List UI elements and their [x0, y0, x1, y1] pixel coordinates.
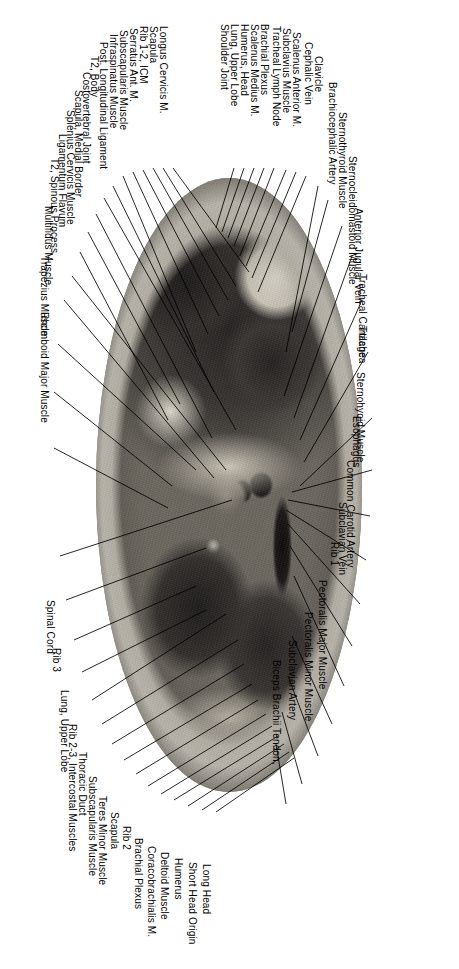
label-serratus-ant-m: Serratus Ant. M. — [128, 28, 138, 102]
label-subclavius-muscle: Subclavius Muscle — [281, 28, 291, 113]
label-brachial-plexus-lower: Brachial Plexus — [133, 838, 143, 909]
label-deltoid-muscle: Deltoid Muscle — [159, 852, 169, 920]
label-subscapularis-muscle-2: Subscapularis Muscle — [87, 776, 97, 876]
label-scalenus-anterior-m: Scalenus Anterior M. — [291, 32, 301, 127]
label-humerus-lower: Humerus — [173, 858, 183, 900]
label-teres-minor-muscle: Teres Minor Muscle — [97, 796, 107, 885]
label-rib-1-2-icm: Rib 1-2, ICM — [138, 26, 148, 84]
label-pectoralis-major-muscle: Pectoralis Major Muscle — [317, 580, 327, 689]
label-spinal-cord: Spinal Cord — [45, 600, 55, 654]
label-subscapularis-muscle-1: Subscapularis Muscle — [118, 30, 128, 130]
label-pectoralis-minor-muscle: Pectoralis Minor Muscle — [303, 612, 313, 721]
label-scapula-2: Scapula — [109, 812, 119, 849]
label-scalenus-medius-m: Scalenus Medius M. — [249, 24, 259, 117]
label-thoracic-duct: Thoracic Duct — [77, 752, 87, 816]
label-humerus-head: Humerus, Head — [239, 24, 249, 96]
label-brachiocephalic-artery: Brachiocephalic Artery — [327, 82, 337, 185]
label-long-head: Long Head — [201, 864, 211, 914]
label-coracobrachialis-m: Coracobrachialis M. — [146, 846, 156, 937]
anatomical-figure: Longus Cervicis M.ScapulaRib 1-2, ICMSer… — [0, 0, 459, 969]
label-brachial-plexus-upper: Brachial Plexus — [259, 24, 269, 95]
label-rib-2-3-intercostal-muscles: Rib 2-3, Intercostal Muscles — [67, 724, 77, 851]
label-infraspinatus-muscle: Infraspinatus Muscle — [108, 34, 118, 129]
label-longus-cervicis-m: Longus Cervicis M. — [158, 26, 168, 114]
label-rhomboid-major-muscle: Rhomboid Major Muscle — [39, 312, 49, 423]
label-biceps-brachii-tendon: Biceps Brachii Tendon, — [271, 660, 281, 765]
label-clavicle: Clavicle — [313, 56, 323, 92]
label-scapula-1: Scapula — [148, 26, 158, 63]
label-subclavian-artery: Subclavian Artery — [287, 640, 297, 720]
label-rib-3: Rib 3 — [51, 648, 61, 672]
cross-section-image — [96, 178, 362, 792]
label-cephalic-vein: Cephalic Vein — [303, 42, 313, 105]
label-tracheal-lymph-node: Tracheal Lymph Node — [271, 26, 281, 126]
label-rib-1: Rib 1 — [329, 542, 339, 566]
label-sternothyroid-muscle-upper: Sternothyroid Muscle — [337, 112, 347, 209]
specimen-subcutaneous-fat — [96, 178, 362, 792]
label-lung-upper-lobe-right: Lung, Upper Lobe — [229, 24, 239, 106]
label-shoulder-joint: Shoulder Joint — [219, 24, 229, 90]
label-short-head-origin: Short Head Origin — [187, 862, 197, 945]
label-trachea: Trachea — [357, 326, 367, 363]
label-rib-2: Rib 2 — [121, 826, 131, 850]
